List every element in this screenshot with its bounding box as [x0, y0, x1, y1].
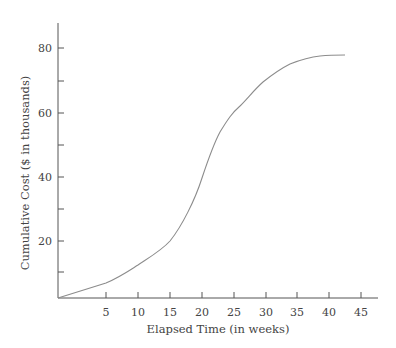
y-tick-label: 80 [38, 42, 52, 55]
x-tick-labels: 5 10 15 20 25 30 35 40 45 [103, 306, 369, 319]
x-tick-label: 10 [131, 306, 145, 319]
y-tick-label: 20 [38, 235, 52, 248]
x-axis-label: Elapsed Time (in weeks) [147, 322, 290, 336]
x-tick-label: 15 [163, 306, 177, 319]
x-ticks [106, 292, 361, 298]
y-tick-label: 60 [38, 107, 52, 120]
y-tick-label: 40 [38, 171, 52, 184]
s-curve-chart: 5 10 15 20 25 30 35 40 45 80 60 40 20 El… [0, 0, 396, 348]
x-tick-label: 45 [354, 306, 368, 319]
y-ticks [58, 48, 64, 272]
y-axis-label: Cumulative Cost ($ in thousands) [18, 76, 32, 271]
x-tick-label: 40 [322, 306, 336, 319]
x-tick-label: 5 [103, 306, 110, 319]
x-tick-label: 35 [290, 306, 304, 319]
y-tick-labels: 80 60 40 20 [38, 42, 52, 248]
x-tick-label: 30 [259, 306, 273, 319]
x-tick-label: 20 [195, 306, 209, 319]
cumulative-cost-curve [58, 55, 345, 298]
x-tick-label: 25 [227, 306, 241, 319]
